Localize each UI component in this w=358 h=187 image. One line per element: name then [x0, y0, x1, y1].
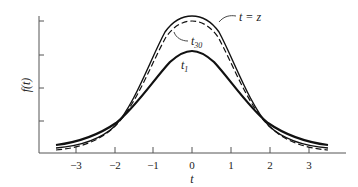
- x-axis-label: t: [190, 172, 194, 186]
- curve-t1: [56, 51, 328, 145]
- x-tick-label: 2: [267, 159, 273, 171]
- x-tick-label: −1: [147, 159, 159, 171]
- y-axis-label: f(t): [19, 78, 33, 93]
- label-curve-t1: t1: [181, 58, 188, 74]
- label-curve-z: t = z: [239, 10, 261, 24]
- t-distribution-chart: −3 −2 −1 0 1 2 3 t f(t) t = z t30 t1: [0, 0, 358, 187]
- label-curve-t30: t30: [191, 34, 202, 50]
- annotations: t = z t30 t1: [174, 10, 261, 74]
- x-tick-label: 1: [228, 159, 234, 171]
- x-tick-labels: −3 −2 −1 0 1 2 3: [70, 159, 312, 171]
- x-tick-label: −2: [109, 159, 121, 171]
- x-tick-label: −3: [70, 159, 82, 171]
- x-tick-label: 3: [306, 159, 312, 171]
- leader-z: [219, 16, 236, 22]
- leader-t30: [174, 32, 188, 41]
- x-tick-label: 0: [189, 159, 195, 171]
